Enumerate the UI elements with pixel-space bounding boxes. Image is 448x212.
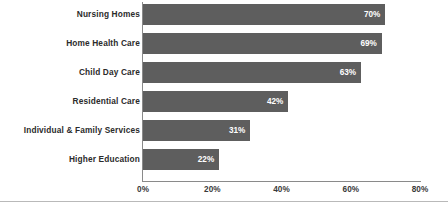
bar-value-label: 22% (198, 149, 214, 170)
x-axis-line (142, 181, 421, 182)
x-tick-label: 20% (192, 185, 232, 194)
x-tick-label: 0% (123, 185, 163, 194)
bar-value-label: 69% (361, 33, 377, 54)
bar-row: Higher Education 22% (0, 145, 448, 174)
bar-track: 42% (143, 91, 288, 112)
bar[interactable]: 70% (143, 4, 385, 25)
x-tick-label: 40% (262, 185, 302, 194)
category-label: Child Day Care (79, 58, 140, 87)
bar-value-label: 42% (267, 91, 283, 112)
bar[interactable]: 69% (143, 33, 382, 54)
bar-row: Home Health Care 69% (0, 29, 448, 58)
bar[interactable]: 31% (143, 120, 250, 141)
plot-area: Nursing Homes 70% Home Health Care 69% C… (0, 0, 448, 182)
category-label: Individual & Family Services (24, 116, 140, 145)
bar-value-label: 70% (364, 4, 380, 25)
category-label: Higher Education (69, 145, 140, 174)
bar-track: 22% (143, 149, 219, 170)
bar-chart-figure: Nursing Homes 70% Home Health Care 69% C… (0, 0, 448, 212)
bar-track: 69% (143, 33, 382, 54)
bar-track: 63% (143, 62, 361, 83)
bar[interactable]: 42% (143, 91, 288, 112)
y-axis-line (142, 2, 143, 182)
bar-row: Residential Care 42% (0, 87, 448, 116)
bar-value-label: 31% (229, 120, 245, 141)
bar-row: Child Day Care 63% (0, 58, 448, 87)
bar-row: Individual & Family Services 31% (0, 116, 448, 145)
bar-track: 31% (143, 120, 250, 141)
bar[interactable]: 22% (143, 149, 219, 170)
footer-divider (0, 201, 448, 202)
x-tick-label: 60% (331, 185, 371, 194)
bar-row: Nursing Homes 70% (0, 0, 448, 29)
bar-value-label: 63% (340, 62, 356, 83)
category-label: Nursing Homes (77, 0, 140, 29)
bar-track: 70% (143, 4, 385, 25)
bar[interactable]: 63% (143, 62, 361, 83)
x-tick-label: 80% (400, 185, 440, 194)
category-label: Home Health Care (66, 29, 140, 58)
category-label: Residential Care (73, 87, 140, 116)
